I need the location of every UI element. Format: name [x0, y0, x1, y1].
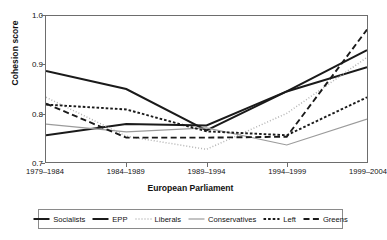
series-line-greens: [46, 30, 367, 138]
legend-label: Left: [283, 215, 296, 224]
legend-item-liberals[interactable]: Liberals: [135, 215, 182, 224]
x-tick-label: 1984–1989: [107, 167, 145, 176]
legend-item-epp[interactable]: EPP: [92, 215, 127, 224]
legend-swatch-greens-icon: [303, 215, 320, 223]
series-line-socialists: [46, 50, 367, 130]
legend-label: Liberals: [155, 215, 182, 224]
legend-swatch-epp-icon: [92, 215, 109, 223]
legend-label: EPP: [112, 215, 127, 224]
plot-area: [45, 15, 368, 163]
legend-item-left[interactable]: Left: [263, 215, 296, 224]
legend-swatch-left-icon: [263, 215, 280, 223]
legend-swatch-conservatives-icon: [188, 215, 205, 223]
x-axis-label: European Parliament: [0, 183, 381, 193]
y-tick-label: 0.8: [0, 109, 43, 118]
x-tick-label: 1989–1994: [187, 167, 225, 176]
legend-swatch-socialists-icon: [33, 215, 50, 223]
y-tick-label: 0.9: [0, 60, 43, 69]
legend-label: Greens: [323, 215, 348, 224]
x-tick-mark: [287, 163, 288, 167]
x-tick-label: 1999–2004: [349, 167, 387, 176]
series-lines: [46, 16, 367, 162]
legend-item-socialists[interactable]: Socialists: [33, 215, 85, 224]
x-tick-label: 1994–1999: [268, 167, 306, 176]
legend-label: Conservatives: [208, 215, 256, 224]
x-tick-mark: [126, 163, 127, 167]
y-tick-mark: [41, 163, 45, 164]
x-tick-mark: [207, 163, 208, 167]
y-tick-label: 1.0: [0, 11, 43, 20]
legend-item-greens[interactable]: Greens: [303, 215, 348, 224]
legend-swatch-liberals-icon: [135, 215, 152, 223]
x-tick-label: 1979–1984: [26, 167, 64, 176]
legend-label: Socialists: [53, 215, 85, 224]
legend-item-conservatives[interactable]: Conservatives: [188, 215, 256, 224]
series-line-liberals: [46, 57, 367, 149]
chart-legend: SocialistsEPPLiberalsConservativesLeftGr…: [38, 209, 343, 229]
